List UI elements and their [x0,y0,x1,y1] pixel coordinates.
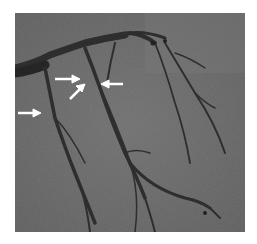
angiogram-svg [15,13,245,232]
vessel-blob [151,41,156,46]
angiogram-image [15,13,245,232]
